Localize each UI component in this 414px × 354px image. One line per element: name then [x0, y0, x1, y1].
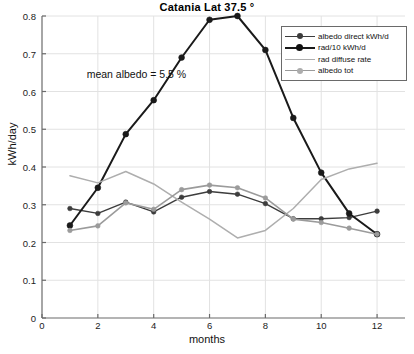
- series-marker-3: [375, 232, 380, 237]
- y-tick-labels: 00.10.20.30.40.50.60.70.8: [6, 0, 36, 354]
- legend-label-albedo-tot: albedo tot: [318, 65, 353, 76]
- legend-swatch-rad-diffuse: [285, 54, 315, 65]
- series-marker-3: [151, 207, 156, 212]
- series-marker-3: [319, 220, 324, 225]
- y-tick-label: 0.7: [8, 48, 36, 59]
- legend-label-albedo-direct: albedo direct kWh/d: [318, 31, 389, 42]
- series-marker-1: [346, 211, 352, 217]
- series-marker-1: [95, 185, 101, 191]
- y-tick-label: 0.3: [8, 199, 36, 210]
- series-marker-0: [96, 211, 101, 216]
- x-tick-label: 8: [263, 320, 268, 331]
- series-marker-3: [68, 228, 73, 233]
- x-tick-label: 10: [316, 320, 327, 331]
- series-marker-3: [179, 187, 184, 192]
- legend-swatch-albedo-direct: [285, 31, 315, 42]
- series-marker-1: [235, 13, 241, 19]
- y-tick-label: 0.5: [8, 124, 36, 135]
- legend-item-albedo-direct[interactable]: albedo direct kWh/d: [285, 31, 402, 42]
- legend-swatch-albedo-tot: [285, 65, 315, 76]
- series-marker-0: [68, 206, 73, 211]
- y-tick-label: 0.2: [8, 237, 36, 248]
- series-marker-1: [262, 47, 268, 53]
- series-marker-1: [318, 170, 324, 176]
- legend-label-rad-diffuse: rad diffuse rate: [318, 54, 371, 65]
- legend-item-rad-diffuse[interactable]: rad diffuse rate: [285, 54, 402, 65]
- x-tick-label: 4: [151, 320, 156, 331]
- figure-container: Catania Lat 37.5 ° kWh/day months 00.10.…: [0, 0, 414, 354]
- y-tick-label: 0.8: [8, 11, 36, 22]
- legend-label-rad10: rad/10 kWh/d: [318, 42, 366, 53]
- series-marker-3: [123, 201, 128, 206]
- series-marker-3: [207, 183, 212, 188]
- series-marker-1: [290, 115, 296, 121]
- series-marker-0: [207, 189, 212, 194]
- legend-item-rad10[interactable]: rad/10 kWh/d: [285, 42, 402, 53]
- series-marker-3: [263, 196, 268, 201]
- series-marker-1: [179, 55, 185, 61]
- series-marker-3: [291, 217, 296, 222]
- series-marker-0: [179, 195, 184, 200]
- x-tick-label: 2: [95, 320, 100, 331]
- series-marker-1: [123, 131, 129, 137]
- legend-item-albedo-tot[interactable]: albedo tot: [285, 65, 402, 76]
- legend: albedo direct kWh/d rad/10 kWh/d rad dif…: [281, 26, 407, 81]
- series-marker-3: [235, 185, 240, 190]
- series-marker-3: [96, 224, 101, 229]
- series-marker-3: [347, 226, 352, 231]
- series-marker-0: [375, 209, 380, 214]
- y-tick-label: 0: [8, 313, 36, 324]
- series-line-2: [70, 163, 377, 238]
- series-marker-1: [207, 17, 213, 23]
- legend-swatch-rad10: [285, 42, 315, 53]
- series-marker-0: [263, 201, 268, 206]
- series-marker-0: [235, 192, 240, 197]
- mean-albedo-annotation: mean albedo = 5.5 %: [87, 68, 187, 80]
- series-marker-1: [67, 223, 73, 229]
- y-tick-label: 0.4: [8, 162, 36, 173]
- series-marker-1: [151, 97, 157, 103]
- x-tick-label: 6: [207, 320, 212, 331]
- x-tick-label: 0: [39, 320, 44, 331]
- x-tick-label: 12: [372, 320, 383, 331]
- y-tick-label: 0.6: [8, 86, 36, 97]
- y-tick-label: 0.1: [8, 275, 36, 286]
